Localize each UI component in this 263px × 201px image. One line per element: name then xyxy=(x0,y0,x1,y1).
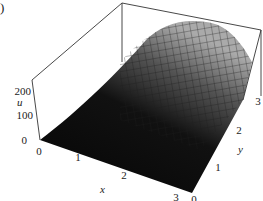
y-tick-3: 3 xyxy=(255,95,261,107)
u-tick-0: 0 xyxy=(22,134,28,146)
u-tick-100: 100 xyxy=(17,109,34,121)
panel-label: ) xyxy=(0,0,4,15)
x-tick-0: 0 xyxy=(36,145,42,157)
u-axis-label: u xyxy=(17,96,23,108)
y-axis-label: y xyxy=(237,143,243,155)
x-tick-1: 1 xyxy=(75,151,81,163)
y-tick-2: 2 xyxy=(236,124,242,136)
u-axis: 0 100 200 u xyxy=(15,85,34,146)
x-tick-2: 2 xyxy=(121,169,127,181)
y-tick-0: 0 xyxy=(191,193,197,201)
surface-plot: 0 100 200 u 0 1 2 3 x 0 1 2 3 y ) xyxy=(0,0,263,201)
x-axis-label: x xyxy=(99,183,105,195)
x-tick-3: 3 xyxy=(173,191,179,201)
y-tick-1: 1 xyxy=(215,161,221,173)
